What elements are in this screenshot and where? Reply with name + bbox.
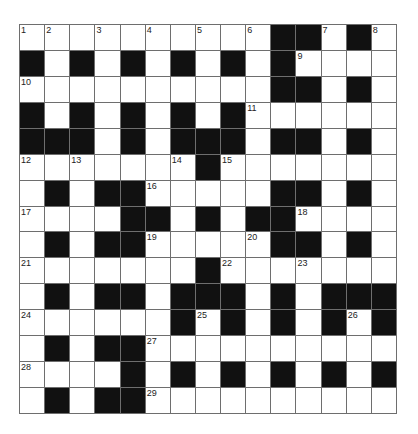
answer-cell[interactable]: 13 xyxy=(70,155,94,180)
answer-cell[interactable] xyxy=(322,388,346,413)
answer-cell[interactable] xyxy=(246,362,270,387)
answer-cell[interactable] xyxy=(121,77,145,102)
answer-cell[interactable] xyxy=(20,284,44,309)
answer-cell[interactable] xyxy=(196,232,220,257)
answer-cell[interactable] xyxy=(372,181,396,206)
answer-cell[interactable] xyxy=(196,51,220,76)
answer-cell[interactable] xyxy=(221,181,245,206)
answer-cell[interactable] xyxy=(146,362,170,387)
answer-cell[interactable] xyxy=(296,310,320,335)
answer-cell[interactable] xyxy=(246,155,270,180)
answer-cell[interactable] xyxy=(121,258,145,283)
answer-cell[interactable]: 8 xyxy=(372,25,396,50)
answer-cell[interactable] xyxy=(296,284,320,309)
answer-cell[interactable] xyxy=(146,129,170,154)
answer-cell[interactable]: 3 xyxy=(95,25,119,50)
answer-cell[interactable] xyxy=(322,155,346,180)
answer-cell[interactable] xyxy=(372,129,396,154)
answer-cell[interactable] xyxy=(271,103,295,128)
answer-cell[interactable] xyxy=(372,103,396,128)
answer-cell[interactable] xyxy=(322,336,346,361)
answer-cell[interactable] xyxy=(146,258,170,283)
answer-cell[interactable] xyxy=(70,232,94,257)
answer-cell[interactable] xyxy=(322,258,346,283)
answer-cell[interactable] xyxy=(347,155,371,180)
answer-cell[interactable] xyxy=(246,51,270,76)
answer-cell[interactable] xyxy=(95,310,119,335)
answer-cell[interactable] xyxy=(372,388,396,413)
answer-cell[interactable] xyxy=(70,181,94,206)
answer-cell[interactable] xyxy=(271,155,295,180)
answer-cell[interactable] xyxy=(221,77,245,102)
answer-cell[interactable] xyxy=(296,362,320,387)
answer-cell[interactable] xyxy=(171,258,195,283)
answer-cell[interactable] xyxy=(322,51,346,76)
answer-cell[interactable] xyxy=(121,155,145,180)
answer-cell[interactable] xyxy=(146,51,170,76)
answer-cell[interactable] xyxy=(121,310,145,335)
answer-cell[interactable] xyxy=(45,77,69,102)
answer-cell[interactable] xyxy=(45,258,69,283)
answer-cell[interactable]: 16 xyxy=(146,181,170,206)
answer-cell[interactable] xyxy=(70,258,94,283)
answer-cell[interactable] xyxy=(271,388,295,413)
answer-cell[interactable] xyxy=(296,103,320,128)
answer-cell[interactable] xyxy=(95,362,119,387)
answer-cell[interactable]: 28 xyxy=(20,362,44,387)
answer-cell[interactable] xyxy=(246,77,270,102)
answer-cell[interactable]: 25 xyxy=(196,310,220,335)
answer-cell[interactable]: 10 xyxy=(20,77,44,102)
answer-cell[interactable]: 19 xyxy=(146,232,170,257)
answer-cell[interactable] xyxy=(322,232,346,257)
answer-cell[interactable] xyxy=(221,232,245,257)
answer-cell[interactable] xyxy=(372,51,396,76)
answer-cell[interactable] xyxy=(322,207,346,232)
answer-cell[interactable]: 26 xyxy=(347,310,371,335)
answer-cell[interactable] xyxy=(171,388,195,413)
answer-cell[interactable] xyxy=(347,207,371,232)
answer-cell[interactable] xyxy=(171,25,195,50)
answer-cell[interactable] xyxy=(196,336,220,361)
answer-cell[interactable] xyxy=(95,51,119,76)
answer-cell[interactable] xyxy=(221,207,245,232)
answer-cell[interactable] xyxy=(347,336,371,361)
answer-cell[interactable] xyxy=(221,388,245,413)
answer-cell[interactable] xyxy=(196,181,220,206)
answer-cell[interactable] xyxy=(171,232,195,257)
answer-cell[interactable]: 6 xyxy=(246,25,270,50)
answer-cell[interactable] xyxy=(20,232,44,257)
answer-cell[interactable] xyxy=(171,207,195,232)
answer-cell[interactable] xyxy=(70,388,94,413)
answer-cell[interactable] xyxy=(347,362,371,387)
answer-cell[interactable] xyxy=(246,258,270,283)
answer-cell[interactable] xyxy=(20,388,44,413)
answer-cell[interactable] xyxy=(70,25,94,50)
answer-cell[interactable]: 17 xyxy=(20,207,44,232)
answer-cell[interactable] xyxy=(246,284,270,309)
answer-cell[interactable] xyxy=(347,388,371,413)
answer-cell[interactable] xyxy=(196,362,220,387)
answer-cell[interactable] xyxy=(196,103,220,128)
answer-cell[interactable] xyxy=(70,310,94,335)
answer-cell[interactable] xyxy=(221,336,245,361)
answer-cell[interactable] xyxy=(246,310,270,335)
answer-cell[interactable] xyxy=(296,388,320,413)
answer-cell[interactable]: 7 xyxy=(322,25,346,50)
answer-cell[interactable] xyxy=(95,207,119,232)
answer-cell[interactable] xyxy=(45,103,69,128)
answer-cell[interactable] xyxy=(347,51,371,76)
answer-cell[interactable] xyxy=(45,310,69,335)
answer-cell[interactable]: 14 xyxy=(171,155,195,180)
answer-cell[interactable]: 29 xyxy=(146,388,170,413)
answer-cell[interactable] xyxy=(271,336,295,361)
answer-cell[interactable] xyxy=(171,181,195,206)
answer-cell[interactable]: 20 xyxy=(246,232,270,257)
answer-cell[interactable] xyxy=(70,284,94,309)
answer-cell[interactable] xyxy=(70,362,94,387)
answer-cell[interactable]: 1 xyxy=(20,25,44,50)
answer-cell[interactable] xyxy=(322,129,346,154)
answer-cell[interactable] xyxy=(121,25,145,50)
answer-cell[interactable] xyxy=(322,103,346,128)
answer-cell[interactable]: 4 xyxy=(146,25,170,50)
answer-cell[interactable] xyxy=(221,25,245,50)
